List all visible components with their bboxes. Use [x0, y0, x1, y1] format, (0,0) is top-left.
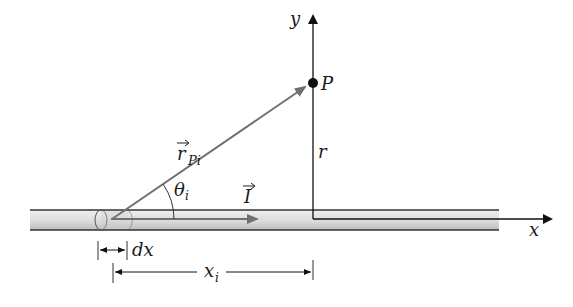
r-vector-arrow: [112, 87, 305, 219]
svg-text:i: i: [185, 189, 189, 203]
svg-text:x: x: [204, 260, 214, 281]
current-label: I: [243, 183, 255, 207]
theta-label: θ i: [174, 179, 189, 203]
y-axis-label: y: [289, 8, 301, 29]
point-p: [308, 78, 318, 88]
x-axis-label: x: [529, 219, 539, 240]
xi-label: x i: [204, 260, 219, 285]
biot-savart-diagram: y x P r Pi θ i I r dx x i: [0, 0, 573, 307]
svg-text:θ: θ: [174, 179, 185, 200]
wire: [30, 210, 499, 230]
r-vector-label: r Pi: [177, 140, 201, 168]
distance-r-label: r: [318, 141, 328, 162]
svg-text:Pi: Pi: [187, 153, 201, 168]
svg-text:I: I: [243, 186, 252, 207]
dx-dimension: [98, 241, 127, 260]
svg-text:i: i: [215, 271, 219, 285]
point-p-label: P: [320, 73, 334, 94]
dx-label: dx: [132, 239, 154, 260]
